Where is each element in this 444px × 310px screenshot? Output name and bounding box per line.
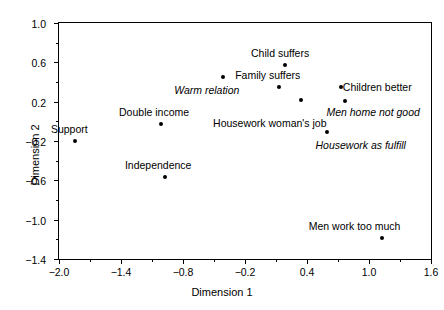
data-point[interactable] [163, 175, 167, 179]
x-axis-title-text: Dimension 1 [191, 286, 252, 298]
plot-area: 1.00.60.2−0.2−0.6−1.0−1.4 −2.0−1.4−0.8−0… [58, 22, 432, 260]
x-tick-mark-minor [152, 259, 153, 262]
x-tick-mark [431, 259, 432, 264]
x-tick-mark [369, 259, 370, 264]
y-tick-mark: −0.2 [54, 141, 59, 142]
data-point[interactable] [277, 85, 281, 89]
x-tick-mark [183, 259, 184, 264]
y-tick-mark: −1.0 [54, 220, 59, 221]
data-point-label: Family suffers [235, 69, 300, 81]
y-tick-mark: −0.6 [54, 180, 59, 181]
data-point[interactable] [299, 98, 303, 102]
y-tick-mark: 0.2 [54, 102, 59, 103]
y-tick-label: −0.6 [25, 175, 46, 187]
y-tick-mark: 0.6 [54, 62, 59, 63]
data-point-label: Men work too much [309, 220, 401, 232]
x-tick-mark [59, 259, 60, 264]
data-point[interactable] [159, 122, 163, 126]
x-tick-label: 1.0 [362, 266, 377, 278]
x-axis-title: Dimension 1 [0, 286, 444, 298]
data-point-label: Support [51, 123, 88, 135]
y-tick-label: 0.2 [31, 97, 46, 109]
x-tick-label: −0.8 [173, 266, 194, 278]
y-tick-mark-minor [56, 239, 59, 240]
data-point[interactable] [221, 75, 225, 79]
y-tick-label: −1.0 [25, 215, 46, 227]
data-point-label: Child suffers [251, 47, 309, 59]
data-point[interactable] [325, 130, 329, 134]
x-tick-mark-minor [276, 259, 277, 262]
data-point-label: Housework as fulfill [315, 139, 405, 151]
x-tick-label: −0.2 [235, 266, 256, 278]
y-tick-label: −0.2 [25, 136, 46, 148]
data-point[interactable] [283, 63, 287, 67]
y-tick-label: 1.0 [31, 18, 46, 30]
y-tick-label: −1.4 [25, 254, 46, 266]
data-point-label: Children better [343, 81, 412, 93]
y-tick-mark-minor [56, 82, 59, 83]
x-tick-mark-minor [400, 259, 401, 262]
y-tick-mark-minor [56, 43, 59, 44]
x-tick-mark-minor [338, 259, 339, 262]
x-tick-label: −1.4 [111, 266, 132, 278]
x-tick-mark [121, 259, 122, 264]
data-point-label: Double income [119, 106, 189, 118]
y-tick-mark: 1.0 [54, 23, 59, 24]
data-point-label: Housework woman's job [213, 117, 326, 129]
y-tick-label: 0.6 [31, 57, 46, 69]
data-point[interactable] [343, 99, 347, 103]
scatter-plot-figure: Dimension 2 1.00.60.2−0.2−0.6−1.0−1.4 −2… [0, 0, 444, 310]
data-point[interactable] [73, 139, 77, 143]
x-tick-mark [245, 259, 246, 264]
x-tick-label: 1.6 [424, 266, 439, 278]
x-tick-mark-minor [214, 259, 215, 262]
x-tick-label: −2.0 [49, 266, 70, 278]
data-point[interactable] [380, 236, 384, 240]
y-tick-mark-minor [56, 200, 59, 201]
x-tick-mark-minor [90, 259, 91, 262]
data-point-label: Men home not good [326, 106, 419, 118]
y-tick-mark-minor [56, 161, 59, 162]
data-point-label: Independence [125, 159, 192, 171]
x-tick-mark [307, 259, 308, 264]
data-point-label: Warm relation [174, 84, 239, 96]
y-tick-mark-minor [56, 121, 59, 122]
x-tick-label: 0.4 [300, 266, 315, 278]
